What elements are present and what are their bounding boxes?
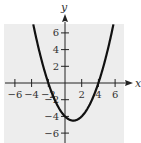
x-tick-label: 2	[79, 89, 85, 100]
x-tick-label: −6	[8, 89, 23, 100]
x-axis-label: x	[135, 77, 141, 90]
x-axis-arrow-icon	[125, 80, 133, 86]
x-tick-label: −4	[24, 89, 39, 100]
y-tick-label: −6	[44, 128, 59, 139]
y-axis-label: y	[60, 1, 68, 14]
x-tick-label: 6	[112, 89, 118, 100]
parabola-chart: −6−4−2246−6−4−2246 x y	[0, 0, 141, 143]
y-tick-label: 4	[53, 44, 59, 55]
y-tick-label: 6	[53, 27, 59, 38]
y-tick-label: 2	[53, 61, 59, 72]
y-axis-arrow-icon	[62, 14, 68, 22]
y-tick-label: −4	[44, 111, 59, 122]
